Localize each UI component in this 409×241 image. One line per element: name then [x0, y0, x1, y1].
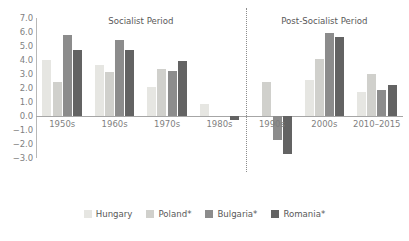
legend-item-hungary[interactable]: Hungary	[84, 209, 133, 219]
bar-slot	[220, 18, 229, 158]
bar-slot	[335, 18, 344, 158]
bar-poland-1950s[interactable]	[53, 82, 62, 116]
y-axis-tick-neg3-0: −3.0	[3, 154, 33, 163]
y-axis-tick-1neg0: 1.0	[3, 98, 33, 107]
bar-slot	[42, 18, 51, 158]
bar-slot	[262, 18, 271, 158]
bar-poland-1960s[interactable]	[105, 72, 114, 116]
legend-item-bulgaria[interactable]: Bulgaria*	[205, 209, 257, 219]
bar-hungary-1980s[interactable]	[200, 104, 209, 116]
bar-bulgaria-2010-2015[interactable]	[377, 90, 386, 116]
bar-group-bars	[246, 18, 298, 158]
legend-swatch-bulgaria	[205, 210, 213, 218]
bar-hungary-1970s[interactable]	[147, 87, 156, 116]
bar-group-bars	[88, 18, 140, 158]
bar-slot	[377, 18, 386, 158]
x-axis-label-1980s: 1980s	[193, 119, 245, 129]
x-axis-label-1990s: 1990s	[246, 119, 298, 129]
plot-area: 1950s1960s1970s1980s1990s2000s2010–2015S…	[36, 18, 403, 158]
bar-hungary-1950s[interactable]	[42, 60, 51, 116]
bar-group-bars	[141, 18, 193, 158]
y-axis-tick-7neg0: 7.0	[3, 14, 33, 23]
bar-chart: 7.06.05.04.03.02.01.00.0−1.0−2.0−3.0 195…	[0, 0, 409, 241]
bar-bulgaria-1950s[interactable]	[63, 35, 72, 116]
period-divider	[246, 8, 247, 172]
bar-romania-2000s[interactable]	[335, 37, 344, 116]
y-axis-tick-5neg0: 5.0	[3, 42, 33, 51]
y-axis-tick-6neg0: 6.0	[3, 28, 33, 37]
bar-group-1950s: 1950s	[36, 18, 88, 158]
bar-hungary-2010-2015[interactable]	[357, 92, 366, 117]
bar-romania-1960s[interactable]	[125, 50, 134, 117]
bar-group-bars	[298, 18, 350, 158]
bar-slot	[125, 18, 134, 158]
legend-swatch-hungary	[84, 210, 92, 218]
bar-romania-2010-2015[interactable]	[388, 85, 397, 117]
x-axis-label-1970s: 1970s	[141, 119, 193, 129]
bar-romania-1970s[interactable]	[178, 61, 187, 116]
bar-slot	[305, 18, 314, 158]
bar-slot	[147, 18, 156, 158]
bar-bulgaria-2000s[interactable]	[325, 33, 334, 116]
bar-slot	[283, 18, 292, 158]
bar-slot	[252, 18, 261, 158]
bar-poland-1970s[interactable]	[157, 69, 166, 116]
bar-group-1970s: 1970s	[141, 18, 193, 158]
legend-label-poland: Poland*	[158, 209, 191, 219]
bar-slot	[157, 18, 166, 158]
y-axis-tick-0neg0: 0.0	[3, 112, 33, 121]
bar-group-bars	[36, 18, 88, 158]
bar-group-2010-2015: 2010–2015	[351, 18, 403, 158]
bar-slot	[115, 18, 124, 158]
y-axis-tick-2neg0: 2.0	[3, 84, 33, 93]
bar-slot	[367, 18, 376, 158]
bar-bulgaria-1970s[interactable]	[168, 71, 177, 116]
bar-poland-2010-2015[interactable]	[367, 74, 376, 116]
bar-slot	[388, 18, 397, 158]
bar-group-1960s: 1960s	[88, 18, 140, 158]
legend-swatch-romania	[271, 210, 279, 218]
legend-label-hungary: Hungary	[96, 209, 133, 219]
bar-slot	[210, 18, 219, 158]
bar-group-1980s: 1980s	[193, 18, 245, 158]
x-axis-label-1950s: 1950s	[36, 119, 88, 129]
bar-slot	[63, 18, 72, 158]
bar-poland-2000s[interactable]	[315, 59, 324, 116]
bar-bulgaria-1960s[interactable]	[115, 40, 124, 116]
bar-hungary-2000s[interactable]	[305, 80, 314, 116]
y-axis-tick-neg2-0: −2.0	[3, 140, 33, 149]
bar-slot	[315, 18, 324, 158]
legend-label-bulgaria: Bulgaria*	[217, 209, 257, 219]
x-axis-label-2010-2015: 2010–2015	[351, 119, 403, 129]
legend-item-poland[interactable]: Poland*	[146, 209, 191, 219]
x-axis-label-2000s: 2000s	[298, 119, 350, 129]
bar-slot	[105, 18, 114, 158]
bar-slot	[325, 18, 334, 158]
bar-slot	[230, 18, 239, 158]
bar-romania-1950s[interactable]	[73, 50, 82, 116]
bar-poland-1990s[interactable]	[262, 82, 271, 116]
post-socialist-period-title: Post-Socialist Period	[264, 16, 384, 26]
y-axis-tick-neg1-0: −1.0	[3, 126, 33, 135]
x-axis-label-1960s: 1960s	[88, 119, 140, 129]
bar-group-1990s: 1990s	[246, 18, 298, 158]
bar-slot	[95, 18, 104, 158]
y-axis-tick-3neg0: 3.0	[3, 70, 33, 79]
bar-slot	[168, 18, 177, 158]
bar-group-bars	[193, 18, 245, 158]
legend-item-romania[interactable]: Romania*	[271, 209, 325, 219]
bar-group-2000s: 2000s	[298, 18, 350, 158]
bar-group-bars	[351, 18, 403, 158]
bar-slot	[178, 18, 187, 158]
bar-slot	[73, 18, 82, 158]
chart-legend: HungaryPoland*Bulgaria*Romania*	[0, 209, 409, 219]
legend-label-romania: Romania*	[283, 209, 325, 219]
y-axis-tick-4neg0: 4.0	[3, 56, 33, 65]
socialist-period-title: Socialist Period	[81, 16, 201, 26]
bar-slot	[200, 18, 209, 158]
y-axis-tick-labels: 7.06.05.04.03.02.01.00.0−1.0−2.0−3.0	[0, 18, 33, 158]
bar-hungary-1960s[interactable]	[95, 65, 104, 116]
legend-swatch-poland	[146, 210, 154, 218]
bar-slot	[53, 18, 62, 158]
bar-slot	[273, 18, 282, 158]
